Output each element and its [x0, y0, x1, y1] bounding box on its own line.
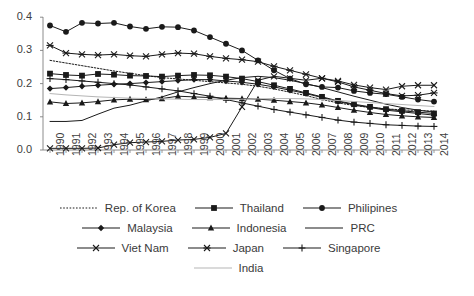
legend-item-viet-nam[interactable]: Viet Nam [76, 242, 169, 254]
chart-legend: Rep. of KoreaThailandPhilipinesMalaysiaI… [0, 198, 474, 296]
legend-swatch-malaysia [81, 222, 121, 234]
marker-philipines [143, 26, 149, 32]
legend-item-indonesia[interactable]: Indonesia [191, 222, 287, 234]
marker-philipines [207, 34, 213, 40]
legend-item-philipines[interactable]: Philipines [302, 202, 397, 214]
legend-label-thailand: Thailand [240, 202, 284, 214]
x-axis-tick-label: 2004 [279, 133, 289, 156]
x-axis-tick-label: 1993 [103, 133, 113, 156]
x-axis-tick-label: 2005 [295, 133, 305, 156]
x-axis-tick-label: 1998 [183, 133, 193, 156]
marker-japan [318, 75, 325, 81]
legend-label-indonesia: Indonesia [237, 222, 287, 234]
legend-label-viet-nam: Viet Nam [122, 242, 169, 254]
x-axis-tick-label: 2001 [231, 133, 241, 156]
marker-japan [190, 51, 197, 57]
marker-japan [334, 79, 341, 85]
marker-japan [174, 50, 181, 56]
plot-area: 0.00.10.20.30.41990199119921993199419951… [0, 0, 474, 200]
marker-malaysia [63, 84, 69, 90]
marker-singapore [303, 111, 310, 118]
series-line-philipines [50, 23, 434, 102]
marker-philipines [127, 24, 133, 30]
marker-singapore [271, 106, 278, 113]
marker-singapore [143, 84, 150, 91]
legend-label-india: India [239, 262, 264, 274]
marker-philipines [335, 85, 341, 91]
marker-thailand [111, 72, 117, 78]
marker-japan [206, 53, 213, 59]
marker-singapore [399, 122, 406, 129]
legend-label-philipines: Philipines [348, 202, 397, 214]
legend-item-india[interactable]: India [193, 262, 264, 274]
legend-marker [319, 205, 325, 211]
marker-philipines [431, 99, 437, 105]
marker-thailand [95, 71, 101, 77]
legend-swatch-indonesia [191, 222, 231, 234]
x-axis-tick-label: 1996 [151, 133, 161, 156]
x-axis-tick-label: 2000 [215, 133, 225, 156]
x-axis-tick-label: 2007 [327, 133, 337, 156]
marker-japan [78, 51, 85, 57]
x-axis-tick-label: 2003 [263, 133, 273, 156]
legend-marker [203, 245, 210, 251]
marker-philipines [63, 29, 69, 35]
x-axis-tick-label: 1997 [167, 133, 177, 156]
legend-marker [98, 225, 104, 231]
legend-marker [299, 245, 306, 252]
marker-japan [142, 53, 149, 59]
x-axis-tick-label: 1995 [135, 133, 145, 156]
marker-japan [238, 57, 245, 63]
line-chart: 0.00.10.20.30.41990199119921993199419951… [0, 0, 474, 296]
marker-thailand [143, 73, 149, 79]
marker-malaysia [47, 85, 53, 91]
marker-philipines [191, 28, 197, 34]
marker-japan [430, 90, 437, 96]
legend-swatch-japan [187, 242, 227, 254]
marker-philipines [239, 48, 245, 54]
y-axis-tick-label: 0.3 [4, 44, 32, 55]
marker-japan [62, 50, 69, 56]
y-axis-tick-label: 0.4 [4, 11, 32, 22]
marker-japan [110, 51, 117, 57]
legend-swatch-prc [304, 222, 344, 234]
marker-singapore [191, 90, 198, 97]
marker-singapore [319, 114, 326, 121]
legend-item-japan[interactable]: Japan [187, 242, 264, 254]
y-axis-tick-label: 0.0 [4, 144, 32, 155]
legend-item-rep-of-korea[interactable]: Rep. of Korea [59, 202, 176, 214]
marker-singapore [79, 78, 86, 85]
legend-swatch-philipines [302, 202, 342, 214]
x-axis-tick-label: 1999 [199, 133, 209, 156]
legend-marker [211, 205, 217, 211]
marker-singapore [111, 80, 118, 87]
marker-philipines [175, 24, 181, 30]
x-axis-tick-label: 2010 [375, 133, 385, 156]
marker-japan [302, 71, 309, 77]
marker-thailand [127, 73, 133, 79]
marker-philipines [223, 41, 229, 47]
marker-philipines [111, 20, 117, 26]
marker-philipines [159, 24, 165, 30]
marker-japan [158, 51, 165, 57]
legend-item-prc[interactable]: PRC [304, 222, 374, 234]
marker-philipines [79, 20, 85, 26]
marker-singapore [335, 117, 342, 124]
legend-item-thailand[interactable]: Thailand [194, 202, 284, 214]
plot-svg [0, 0, 474, 200]
x-axis-tick-label: 2009 [359, 133, 369, 156]
legend-item-singapore[interactable]: Singapore [282, 242, 380, 254]
legend-label-singapore: Singapore [328, 242, 380, 254]
marker-singapore [287, 109, 294, 116]
y-axis-tick-label: 0.1 [4, 111, 32, 122]
x-axis-tick-label: 1990 [55, 133, 65, 156]
legend-item-malaysia[interactable]: Malaysia [81, 222, 172, 234]
marker-singapore [255, 103, 262, 110]
legend-swatch-rep-of-korea [59, 202, 99, 214]
marker-singapore [351, 119, 358, 126]
marker-singapore [207, 93, 214, 100]
legend-label-malaysia: Malaysia [127, 222, 172, 234]
marker-singapore [159, 86, 166, 93]
x-axis-tick-label: 2013 [423, 133, 433, 156]
x-axis-tick-label: 1992 [87, 133, 97, 156]
